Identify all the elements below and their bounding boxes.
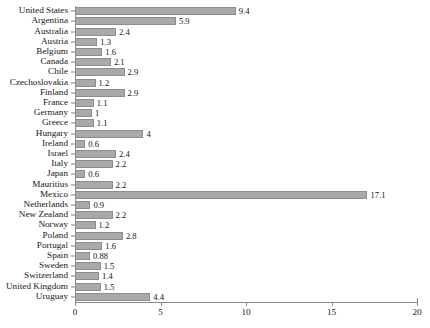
bar: [75, 252, 90, 260]
bar-row: Mexico17.1: [75, 190, 417, 200]
bar-row: Chile2.9: [75, 67, 417, 77]
bar-value-label: 2.9: [128, 68, 139, 77]
x-axis-tick-label: 0: [73, 308, 78, 317]
bar: [75, 68, 125, 76]
category-label: Finland: [40, 88, 68, 97]
x-axis-tick: [161, 302, 162, 306]
bar: [75, 272, 99, 280]
bar: [75, 89, 125, 97]
bar: [75, 293, 150, 301]
bar-value-label: 1.6: [105, 242, 116, 251]
y-axis-line: [75, 6, 76, 302]
bar-row: Australia2.4: [75, 26, 417, 36]
bar-row: Norway1.2: [75, 220, 417, 230]
bar: [75, 160, 113, 168]
bar-value-label: 1.4: [102, 272, 113, 281]
bar-value-label: 1.5: [104, 262, 115, 271]
bar-value-label: 2.4: [119, 150, 130, 159]
bar-row: Poland2.8: [75, 231, 417, 241]
bar: [75, 140, 85, 148]
bar-row: Canada2.1: [75, 57, 417, 67]
x-axis-tick: [75, 302, 76, 306]
bar-value-label: 1: [95, 109, 99, 118]
category-label: France: [43, 98, 68, 107]
bar-chart: United States9.4Argentina5.9Australia2.4…: [0, 0, 430, 328]
bar-row: New Zealand2.2: [75, 210, 417, 220]
bar: [75, 170, 85, 178]
bar-row: Greece1.1: [75, 118, 417, 128]
category-label: Italy: [51, 160, 68, 169]
bar-row: Italy2.2: [75, 159, 417, 169]
category-label: Netherlands: [24, 200, 68, 209]
category-label: Belgium: [36, 47, 68, 56]
bar-value-label: 1.3: [100, 37, 111, 46]
bar-row: Sweden1.5: [75, 261, 417, 271]
bar: [75, 58, 111, 66]
bar: [75, 181, 113, 189]
bar-value-label: 1.5: [104, 282, 115, 291]
bar: [75, 232, 123, 240]
bar: [75, 7, 236, 15]
category-label: Canada: [40, 58, 68, 67]
x-axis-tick-label: 5: [158, 308, 163, 317]
bar-row: Japan0.6: [75, 169, 417, 179]
x-axis-tick: [246, 302, 247, 306]
x-axis-tick-label: 10: [241, 308, 250, 317]
category-label: Norway: [38, 221, 68, 230]
bar: [75, 48, 102, 56]
category-label: Mauritius: [32, 180, 68, 189]
bar: [75, 242, 102, 250]
bar: [75, 17, 176, 25]
category-label: Poland: [42, 231, 68, 240]
bar-value-label: 0.9: [93, 201, 104, 210]
category-label: Mexico: [40, 190, 68, 199]
bar-row: Germany1: [75, 108, 417, 118]
bar-value-label: 2.9: [128, 88, 139, 97]
bar-value-label: 2.4: [119, 27, 130, 36]
category-label: Hungary: [36, 129, 68, 138]
x-axis-tick: [332, 302, 333, 306]
bar: [75, 191, 367, 199]
bar-row: Portugal1.6: [75, 241, 417, 251]
bar: [75, 211, 113, 219]
bar-row: United Kingdom1.5: [75, 282, 417, 292]
category-label: Czechoslovakia: [10, 78, 68, 87]
category-label: Sweden: [39, 262, 68, 271]
x-axis-tick: [417, 302, 418, 306]
bar-value-label: 2.2: [116, 160, 127, 169]
bar-value-label: 0.88: [93, 252, 108, 261]
category-label: United States: [19, 6, 68, 15]
bar: [75, 201, 90, 209]
bar-row: Netherlands0.9: [75, 200, 417, 210]
category-label: Uruguay: [36, 292, 68, 301]
category-label: New Zealand: [19, 211, 68, 220]
bar-value-label: 0.6: [88, 139, 99, 148]
category-label: Chile: [48, 68, 68, 77]
category-label: Austria: [41, 37, 68, 46]
category-label: Portugal: [37, 241, 68, 250]
bar-row: Uruguay4.4: [75, 292, 417, 302]
bar-row: France1.1: [75, 98, 417, 108]
bar: [75, 99, 94, 107]
bar-value-label: 4: [146, 129, 150, 138]
bar: [75, 79, 96, 87]
category-label: Australia: [34, 27, 68, 36]
category-label: United Kingdom: [6, 282, 68, 291]
category-label: Greece: [42, 119, 68, 128]
bar-row: Israel2.4: [75, 149, 417, 159]
bar-row: Hungary4: [75, 128, 417, 138]
bar-row: Austria1.3: [75, 37, 417, 47]
bar-row: Spain0.88: [75, 251, 417, 261]
bar-row: Czechoslovakia1.2: [75, 77, 417, 87]
bar-value-label: 4.4: [153, 293, 164, 302]
bar-row: Belgium1.6: [75, 47, 417, 57]
bar-row: United States9.4: [75, 6, 417, 16]
bar-row: Argentina5.9: [75, 16, 417, 26]
category-label: Germany: [34, 109, 68, 118]
bar: [75, 28, 116, 36]
category-label: Argentina: [31, 17, 68, 26]
bar-row: Ireland0.6: [75, 139, 417, 149]
bar: [75, 119, 94, 127]
bar: [75, 38, 97, 46]
bar: [75, 130, 143, 138]
